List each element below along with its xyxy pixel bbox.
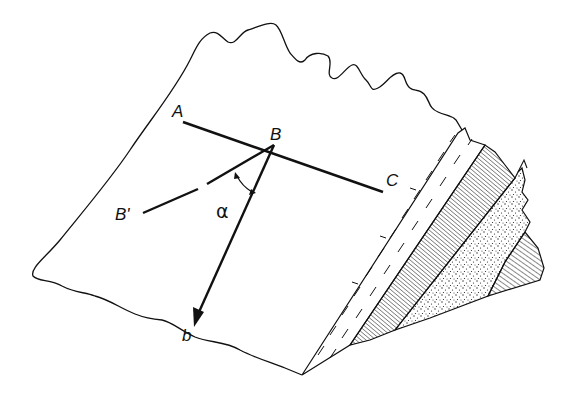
bedding-plane-outline	[33, 60, 302, 375]
arc-arrowhead-top-icon	[234, 172, 240, 179]
alpha-angle-arc	[237, 176, 252, 192]
dip-direction-arrow-shaft	[199, 145, 274, 312]
label-a: A	[171, 102, 183, 121]
geological-block-diagram: A B C B' b α	[0, 0, 569, 404]
label-c: C	[386, 171, 399, 190]
jagged-top-edge	[190, 23, 462, 130]
label-b-lower: b	[182, 326, 191, 345]
label-b: B	[270, 125, 281, 144]
label-b-prime: B'	[115, 205, 130, 224]
label-alpha: α	[216, 200, 229, 222]
arrowhead-icon	[193, 307, 204, 327]
apparent-dip-line-segment-1	[143, 189, 198, 213]
